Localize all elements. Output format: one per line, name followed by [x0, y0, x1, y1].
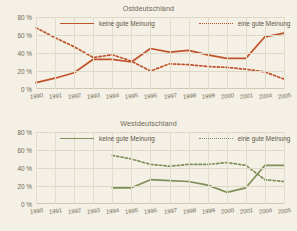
x-tick-label: 2004	[258, 92, 272, 100]
y-tick-label: 40 %	[17, 50, 32, 57]
legend-label-dotted: eine gute Meinung	[238, 135, 291, 142]
y-tick-label: 20 %	[17, 183, 32, 190]
chart-title-east: Ostdeutschland	[0, 4, 297, 13]
legend-east: keine gute Meinung eine gute Meinung	[36, 17, 284, 30]
x-tick-label: 1997	[163, 207, 177, 215]
x-tick-label: 2005	[278, 207, 292, 215]
x-tick-label: 1999	[201, 92, 215, 100]
chart-panel-west: Westdeutschland 0 %20 %40 %60 %80 %19901…	[0, 113, 297, 226]
x-tick-label: 2001	[239, 207, 253, 215]
x-tick-label: 1994	[106, 92, 120, 100]
gridline-vertical	[284, 17, 285, 89]
y-tick-label: 80 %	[17, 14, 32, 21]
x-tick-label: 1993	[87, 92, 101, 100]
legend-west: keine gute Meinung eine gute Meinung	[36, 132, 284, 145]
x-tick-label: 1999	[201, 207, 215, 215]
x-tick-label: 1996	[144, 92, 158, 100]
chart-panel-east: Ostdeutschland 0 %20 %40 %60 %80 %199019…	[0, 0, 297, 113]
legend-swatch-solid-icon	[60, 23, 94, 24]
x-tick-label: 1996	[144, 207, 158, 215]
x-tick-label: 2004	[258, 207, 272, 215]
x-tick-label: 1992	[68, 92, 82, 100]
legend-item-keine-gute-meinung-east: keine gute Meinung	[60, 20, 155, 27]
legend-swatch-solid-icon	[60, 138, 94, 139]
y-tick-label: 60 %	[17, 147, 32, 154]
x-tick-label: 1991	[49, 207, 63, 215]
legend-label-solid: keine gute Meinung	[99, 135, 155, 142]
x-tick-label: 1990	[30, 207, 44, 215]
legend-label-solid: keine gute Meinung	[99, 20, 155, 27]
x-tick-label: 2000	[220, 92, 234, 100]
x-tick-label: 1993	[87, 207, 101, 215]
y-tick-label: 40 %	[17, 165, 32, 172]
x-tick-label: 1994	[106, 207, 120, 215]
x-tick-label: 1992	[68, 207, 82, 215]
legend-item-keine-gute-meinung-west: keine gute Meinung	[60, 135, 155, 142]
x-tick-label: 1991	[49, 92, 63, 100]
y-tick-label: 0 %	[21, 201, 32, 208]
series-path-keine-gute-meinung	[112, 165, 284, 192]
x-tick-label: 2000	[220, 207, 234, 215]
y-tick-label: 0 %	[21, 86, 32, 93]
legend-label-dotted: eine gute Meinung	[238, 20, 291, 27]
x-tick-label: 1990	[30, 92, 44, 100]
gridline-vertical	[284, 132, 285, 204]
chart-title-west: Westdeutschland	[0, 119, 297, 128]
y-tick-label: 80 %	[17, 129, 32, 136]
legend-item-eine-gute-meinung-east: eine gute Meinung	[199, 20, 291, 27]
x-tick-label: 1998	[182, 92, 196, 100]
x-tick-label: 1997	[163, 92, 177, 100]
x-tick-label: 1995	[125, 92, 139, 100]
legend-swatch-dotted-icon	[199, 138, 233, 139]
legend-item-eine-gute-meinung-west: eine gute Meinung	[199, 135, 291, 142]
y-tick-label: 20 %	[17, 68, 32, 75]
y-tick-label: 60 %	[17, 32, 32, 39]
x-tick-label: 1995	[125, 207, 139, 215]
x-tick-label: 2005	[278, 92, 292, 100]
legend-swatch-dotted-icon	[199, 23, 233, 24]
x-tick-label: 1998	[182, 207, 196, 215]
figure-root: Ostdeutschland 0 %20 %40 %60 %80 %199019…	[0, 0, 297, 231]
x-tick-label: 2001	[239, 92, 253, 100]
